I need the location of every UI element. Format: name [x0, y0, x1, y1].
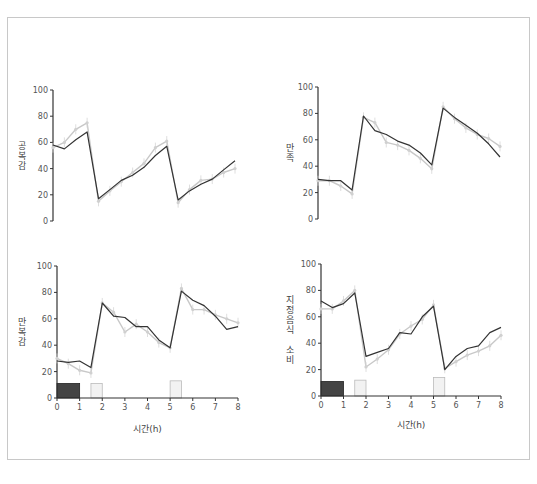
- data-point: [177, 201, 180, 204]
- data-point: [339, 184, 342, 187]
- series-line-dark: [321, 293, 501, 370]
- y-tick-label: 40: [42, 341, 52, 350]
- data-point: [236, 321, 239, 324]
- data-point: [233, 167, 236, 170]
- data-point: [353, 289, 356, 292]
- data-point: [86, 121, 89, 124]
- x-tick-label: 8: [235, 403, 240, 412]
- x-tick-label: 7: [213, 403, 218, 412]
- data-point: [488, 344, 491, 347]
- data-point: [430, 167, 433, 170]
- x-tick-label: 2: [363, 401, 368, 410]
- y-tick-label: 80: [303, 109, 313, 118]
- y-tick-label: 100: [33, 86, 48, 95]
- data-point: [165, 139, 168, 142]
- y-tick-label: 0: [308, 215, 313, 224]
- panel-designated-food-consumption: 020406080100012345678시간(h)지정음식 소비: [286, 260, 504, 430]
- figure-canvas: 020406080100공복감 020406080100만족 020406080…: [0, 0, 537, 484]
- data-point: [407, 149, 410, 152]
- y-tick-label: 60: [306, 313, 316, 322]
- y-axis-title: 만족: [286, 143, 294, 163]
- data-point: [376, 357, 379, 360]
- y-tick-label: 80: [42, 288, 52, 297]
- data-point: [123, 330, 126, 333]
- x-tick-label: 8: [498, 401, 503, 410]
- meal-bar-snack: [355, 380, 366, 396]
- y-tick-label: 20: [38, 191, 48, 200]
- x-tick-label: 7: [476, 401, 481, 410]
- data-point: [466, 353, 469, 356]
- y-axis-title: 지정음식 소비: [286, 295, 294, 365]
- data-point: [364, 365, 367, 368]
- y-axis-title: 만복감: [18, 317, 26, 347]
- x-tick-label: 1: [77, 403, 82, 412]
- data-point: [409, 324, 412, 327]
- data-point: [487, 137, 490, 140]
- y-tick-label: 60: [303, 136, 313, 145]
- x-tick-label: 2: [100, 403, 105, 412]
- panel-satisfaction: 020406080100만족: [286, 83, 502, 224]
- panel-fullness: 020406080100012345678시간(h)만복감: [18, 262, 241, 434]
- x-tick-label: 6: [190, 403, 195, 412]
- data-point: [396, 143, 399, 146]
- data-point: [154, 146, 157, 149]
- y-tick-label: 20: [306, 366, 316, 375]
- y-tick-label: 0: [47, 394, 52, 403]
- y-tick-label: 40: [303, 162, 313, 171]
- data-point: [454, 360, 457, 363]
- x-tick-label: 0: [318, 401, 323, 410]
- x-tick-label: 0: [54, 403, 59, 412]
- x-tick-label: 5: [168, 403, 173, 412]
- data-point: [146, 330, 149, 333]
- data-point: [112, 311, 115, 314]
- x-axis-title: 시간(h): [133, 424, 162, 434]
- data-point: [78, 369, 81, 372]
- y-tick-label: 80: [38, 112, 48, 121]
- data-point: [97, 200, 100, 203]
- y-tick-label: 20: [42, 368, 52, 377]
- meal-bar-snack: [170, 381, 181, 398]
- data-point: [191, 308, 194, 311]
- y-tick-label: 80: [306, 286, 316, 295]
- x-tick-label: 4: [145, 403, 150, 412]
- y-tick-label: 60: [38, 138, 48, 147]
- data-point: [63, 141, 66, 144]
- meal-bar-snack: [91, 383, 102, 398]
- data-point: [498, 145, 501, 148]
- y-tick-label: 20: [303, 189, 313, 198]
- y-tick-label: 100: [37, 262, 52, 271]
- data-point: [131, 171, 134, 174]
- y-tick-label: 100: [298, 83, 313, 92]
- data-point: [199, 179, 202, 182]
- data-point: [419, 157, 422, 160]
- data-point: [180, 287, 183, 290]
- x-tick-label: 6: [453, 401, 458, 410]
- data-point: [225, 317, 228, 320]
- data-point: [373, 121, 376, 124]
- meal-bar-main: [57, 383, 80, 398]
- y-tick-label: 100: [301, 260, 316, 269]
- data-point: [385, 141, 388, 144]
- data-point: [319, 307, 322, 310]
- data-point: [464, 126, 467, 129]
- x-tick-label: 3: [386, 401, 391, 410]
- x-tick-label: 4: [408, 401, 413, 410]
- y-tick-label: 60: [42, 315, 52, 324]
- y-tick-label: 0: [43, 217, 48, 226]
- data-point: [157, 341, 160, 344]
- y-axis-title: 공복감: [18, 141, 26, 171]
- y-tick-label: 0: [311, 392, 316, 401]
- panel-hunger: 020406080100공복감: [18, 86, 237, 226]
- x-tick-label: 5: [431, 401, 436, 410]
- data-point: [202, 308, 205, 311]
- data-point: [55, 357, 58, 360]
- data-point: [51, 146, 54, 149]
- data-point: [351, 192, 354, 195]
- x-tick-label: 3: [122, 403, 127, 412]
- meal-bar-snack: [434, 378, 445, 396]
- data-point: [74, 128, 77, 131]
- data-point: [477, 350, 480, 353]
- data-point: [142, 162, 145, 165]
- x-tick-label: 1: [341, 401, 346, 410]
- data-point: [89, 371, 92, 374]
